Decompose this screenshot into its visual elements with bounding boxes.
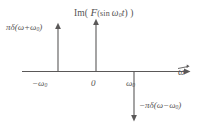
x-axis-label: ω [178,68,185,78]
impulse-arrow-up-neg-omega0 [55,23,61,72]
left-impulse-text: πδ(ω+ω [6,22,36,32]
title-omega: ω [112,8,119,18]
plot-title: Im( F(sin ω0t) ) [74,7,133,19]
y-axis-arrowhead [93,19,99,25]
right-impulse-label: −πδ(ω−ω0) [139,101,181,111]
impulse-down-arrowhead [131,115,137,122]
title-im: Im [74,8,85,18]
diagram-graphics [0,0,204,131]
omega-accent-arrowhead [187,65,190,69]
tick-neg-text: −ω [32,78,44,88]
tick-label-origin: 0 [91,79,96,88]
right-impulse-tail: ) [178,100,181,110]
title-close: ) ) [124,8,133,18]
tick-zero-text: 0 [91,78,96,88]
tick-label-negative-omega-zero: −ω0 [32,79,47,89]
impulse-up-arrowhead [55,23,61,29]
tick-pos-subscript: 0 [132,82,135,88]
right-impulse-text: −πδ(ω−ω [139,100,176,110]
tick-neg-subscript: 0 [44,82,47,88]
y-axis [93,19,99,72]
tick-label-positive-omega-zero: ω0 [126,79,135,89]
x-axis [22,69,191,75]
figure-canvas: Im( F(sin ω0t) ) πδ(ω+ω0) −πδ(ω−ω0) −ω0 … [0,0,204,131]
title-inner: (sin [97,9,112,18]
left-impulse-label: πδ(ω+ω0) [6,23,42,33]
x-axis-label-text: ω [178,67,185,77]
left-impulse-tail: ) [39,22,42,32]
